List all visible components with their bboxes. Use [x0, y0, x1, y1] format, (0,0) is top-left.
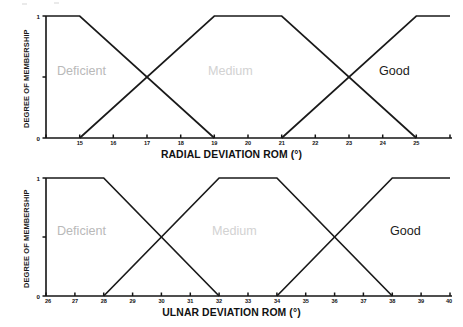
x-tick-label: 20: [245, 140, 251, 146]
x-tick-label: 35: [303, 298, 309, 304]
y-tick-label-0: 0: [30, 135, 40, 142]
x-tick-label: 19: [211, 140, 217, 146]
x-tick-label: 23: [346, 140, 352, 146]
radial-deviation-plot-svg: [0, 0, 463, 165]
x-tick-label: 34: [274, 298, 280, 304]
term-label-medium: Medium: [208, 64, 253, 78]
x-tick-label: 24: [380, 140, 386, 146]
x-tick-label: 25: [413, 140, 419, 146]
x-tick-label: 16: [110, 140, 116, 146]
x-tick-label: 37: [360, 298, 366, 304]
y-axis-title-ulnar: DEGREE OF MEMBERSHIP: [22, 189, 31, 288]
term-label-deficient: Deficient: [57, 64, 106, 78]
x-tick-label: 33: [245, 298, 251, 304]
x-tick-label: 31: [187, 298, 193, 304]
x-tick-label: 29: [130, 298, 136, 304]
term-label-good: Good: [390, 224, 421, 238]
term-label-good: Good: [379, 64, 410, 78]
y-tick-label-1: 1: [30, 175, 40, 182]
x-tick-label: 17: [144, 140, 150, 146]
chart-panel-ulnar-deviation: 1 0 26 27 28 29 30 31 32 33 34 35 36 37 …: [0, 165, 463, 327]
membership-curve-good: [277, 178, 450, 296]
x-tick-label: 30: [158, 298, 164, 304]
x-tick-label: 28: [101, 298, 107, 304]
plot-area-radial: 1 0 15 16 17 18 19 20 21 22 23 24 25 Def…: [0, 0, 463, 165]
plot-area-ulnar: 1 0 26 27 28 29 30 31 32 33 34 35 36 37 …: [0, 165, 463, 327]
membership-curve-good: [282, 16, 450, 138]
x-tick-label: 26: [45, 298, 51, 304]
y-axis-title-radial: DEGREE OF MEMBERSHIP: [22, 29, 31, 128]
x-tick-label: 36: [332, 298, 338, 304]
y-tick-label-1: 1: [30, 13, 40, 20]
x-tick-label: 27: [72, 298, 78, 304]
x-axis-title-ulnar: ULNAR DEVIATION ROM (°): [0, 307, 463, 318]
y-tick-label-0: 0: [30, 293, 40, 300]
x-axis-title-radial: RADIAL DEVIATION ROM (°): [0, 149, 463, 160]
x-tick-label: 39: [418, 298, 424, 304]
term-label-medium: Medium: [212, 224, 257, 238]
x-tick-label: 38: [389, 298, 395, 304]
x-tick-label: 32: [216, 298, 222, 304]
chart-panel-radial-deviation: 1 0 15 16 17 18 19 20 21 22 23 24 25 Def…: [0, 0, 463, 165]
x-tick-label: 21: [279, 140, 285, 146]
term-label-deficient: Deficient: [57, 224, 106, 238]
x-tick-label: 40: [446, 298, 452, 304]
x-tick-label: 22: [312, 140, 318, 146]
x-tick-label: 18: [178, 140, 184, 146]
figure-page: 1 0 15 16 17 18 19 20 21 22 23 24 25 Def…: [0, 0, 463, 327]
x-tick-label: 15: [77, 140, 83, 146]
